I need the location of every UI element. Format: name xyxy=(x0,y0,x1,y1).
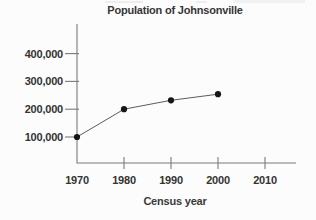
x-tick-label: 2010 xyxy=(253,174,277,186)
y-tick-label: 400,000 xyxy=(25,48,63,60)
y-tick-label: 200,000 xyxy=(25,103,63,115)
line-chart-canvas: 100,000200,000300,000400,000197019801990… xyxy=(0,0,316,220)
data-point xyxy=(168,97,174,103)
x-tick-label: 2000 xyxy=(206,174,230,186)
data-point xyxy=(215,91,221,97)
x-tick-label: 1990 xyxy=(159,174,183,186)
y-tick-label: 100,000 xyxy=(25,131,63,143)
y-tick-label: 300,000 xyxy=(25,75,63,87)
x-axis-title: Census year xyxy=(0,195,316,207)
axes xyxy=(77,24,296,163)
data-point xyxy=(121,106,127,112)
x-tick-label: 1980 xyxy=(112,174,136,186)
data-line xyxy=(77,94,218,137)
x-tick-label: 1970 xyxy=(65,174,89,186)
data-point xyxy=(74,134,80,140)
chart-figure: Population of Johnsonville 100,000200,00… xyxy=(0,0,316,220)
